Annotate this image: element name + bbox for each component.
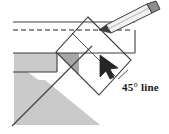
angle-label: 45° line	[122, 81, 159, 93]
gray-step-block	[14, 53, 57, 72]
diagram-canvas: 45° line	[0, 0, 169, 134]
technical-diagram	[0, 0, 169, 134]
